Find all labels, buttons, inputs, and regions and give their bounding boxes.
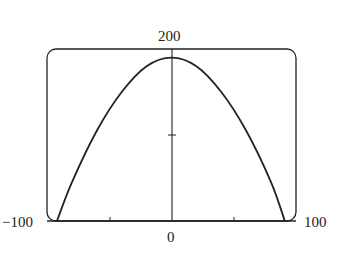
x-origin-label: 0: [167, 230, 175, 245]
y-max-label: 200: [158, 29, 181, 44]
x-min-label: −100: [2, 215, 33, 230]
x-max-label: 100: [304, 215, 327, 230]
data-curve: [57, 58, 285, 221]
